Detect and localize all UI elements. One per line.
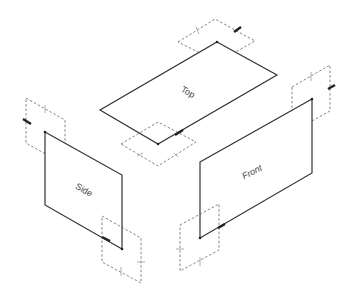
vertex-dot [311, 98, 314, 101]
vertex-dot [44, 131, 47, 134]
vertex-dot [216, 41, 219, 44]
edge-marker [328, 85, 335, 89]
vertex-dot [121, 248, 124, 251]
isometric-diagram: Top Side F [0, 0, 360, 296]
tick-mark [174, 153, 178, 157]
edge-marker [23, 119, 31, 124]
tick-mark [196, 27, 199, 34]
diagram-canvas: Top Side F [0, 0, 360, 296]
vertex-dot [199, 237, 202, 240]
vertex-dot [157, 143, 160, 146]
